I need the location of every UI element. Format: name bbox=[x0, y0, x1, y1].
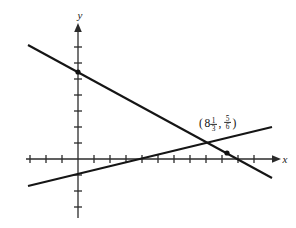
label-y-numerator: 5 bbox=[226, 114, 230, 123]
label-comma: , bbox=[219, 117, 222, 130]
x-axis-label: x bbox=[282, 153, 288, 165]
label-x-denominator: 3 bbox=[212, 124, 216, 133]
label-x-numerator: 1 bbox=[212, 116, 216, 125]
coordinate-graph-figure: x y ( 8 1 3 , 5 6 ) bbox=[0, 0, 296, 228]
label-whole-number: 8 bbox=[205, 117, 211, 129]
y-axis-arrow-icon bbox=[74, 23, 82, 32]
plotted-lines-group bbox=[28, 45, 272, 186]
axes-group bbox=[26, 23, 281, 218]
intersection-point-label: ( 8 1 3 , 5 6 ) bbox=[199, 114, 237, 134]
y-intercept-dot bbox=[75, 69, 80, 74]
x-axis-arrow-icon bbox=[272, 155, 281, 163]
ascending-line bbox=[28, 127, 272, 186]
graph-canvas: x y ( 8 1 3 , 5 6 ) bbox=[0, 0, 296, 228]
descending-line bbox=[28, 45, 272, 178]
intersection-dot bbox=[224, 150, 229, 155]
label-y-denominator: 6 bbox=[226, 122, 230, 131]
y-axis-label: y bbox=[77, 9, 83, 21]
label-open-paren: ( bbox=[199, 117, 203, 130]
label-close-paren: ) bbox=[233, 117, 237, 130]
